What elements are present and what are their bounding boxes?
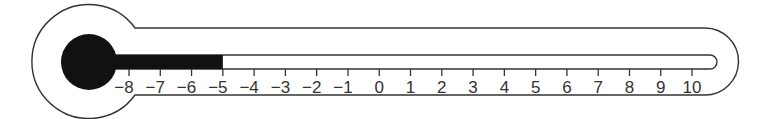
tick-label: 3 — [468, 78, 477, 97]
tick-label: −2 — [302, 78, 321, 97]
tick-label: −7 — [146, 78, 165, 97]
tick-label: 8 — [625, 78, 634, 97]
tick-label: 2 — [437, 78, 446, 97]
thermometer-bulb — [61, 34, 117, 90]
tick-label: 0 — [375, 78, 384, 97]
tick-label: −8 — [114, 78, 133, 97]
tick-label: 7 — [593, 78, 602, 97]
tick-label: 1 — [406, 78, 415, 97]
tick-label: 10 — [683, 78, 702, 97]
tick-label: 9 — [656, 78, 665, 97]
scale-ticks: −8−7−6−5−4−3−2−1012345678910 — [114, 69, 701, 97]
tick-label: 6 — [562, 78, 571, 97]
tick-label: −3 — [271, 78, 290, 97]
thermometer-diagram: −8−7−6−5−4−3−2−1012345678910 — [0, 0, 775, 119]
tick-label: −6 — [177, 78, 196, 97]
tick-label: −5 — [208, 78, 227, 97]
tick-label: −4 — [239, 78, 258, 97]
tick-label: 5 — [531, 78, 540, 97]
mercury-column — [100, 55, 223, 69]
tick-label: −1 — [333, 78, 352, 97]
tick-label: 4 — [500, 78, 509, 97]
